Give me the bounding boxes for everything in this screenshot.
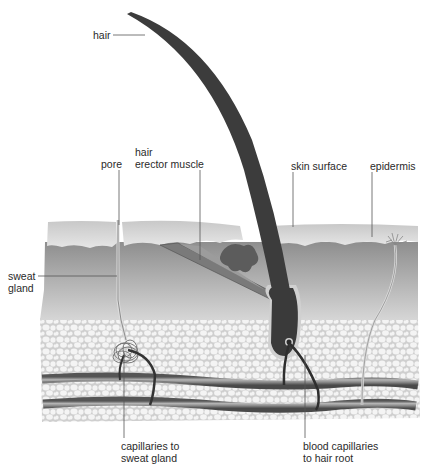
- label-capillaries-sweat-line2: sweat gland: [121, 452, 177, 464]
- label-sweat-gland-line1: sweat: [8, 270, 35, 282]
- label-skin-surface: skin surface: [291, 160, 347, 172]
- label-pore: pore: [101, 158, 122, 170]
- label-hair-erector-muscle-line2: erector muscle: [135, 158, 204, 170]
- label-hair: hair: [93, 29, 111, 41]
- label-sweat-gland-line2: gland: [8, 282, 34, 294]
- label-capillaries-sweat-line1: capillaries to: [121, 440, 179, 452]
- label-blood-capillaries-line2: to hair root: [303, 452, 353, 464]
- skin-cross-section-diagram: [0, 0, 431, 469]
- label-blood-capillaries-line1: blood capillaries: [303, 440, 378, 452]
- label-epidermis: epidermis: [370, 160, 416, 172]
- label-hair-erector-muscle-line1: hair: [135, 146, 153, 158]
